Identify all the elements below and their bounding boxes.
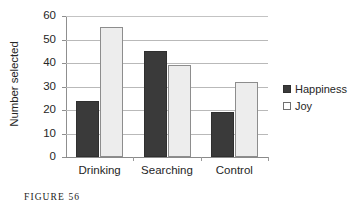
bar-drinking-joy [100, 27, 123, 157]
y-tick-mark [62, 110, 66, 111]
figure-container: Number selected DrinkingSearchingControl… [0, 0, 364, 212]
legend-item-joy: Joy [283, 97, 347, 114]
y-tick-label: 0 [30, 151, 56, 162]
legend-item-happiness: Happiness [283, 80, 347, 97]
y-tick-label: 10 [30, 128, 56, 139]
x-axis-label-drinking: Drinking [66, 164, 133, 176]
figure-caption: FIGURE 56 [24, 192, 80, 202]
open-square-icon [283, 102, 291, 110]
y-axis-title: Number selected [8, 28, 24, 140]
filled-square-icon [283, 85, 291, 93]
chart-legend: HappinessJoy [283, 80, 347, 114]
x-axis-label-searching: Searching [133, 164, 200, 176]
bar-searching-happiness [144, 51, 167, 157]
x-axis-label-control: Control [201, 164, 268, 176]
y-tick-mark [62, 63, 66, 64]
y-tick-mark [62, 40, 66, 41]
bar-drinking-happiness [76, 101, 99, 157]
plot-area [66, 16, 268, 157]
y-tick-mark [62, 16, 66, 17]
bar-searching-joy [168, 65, 191, 157]
x-tick-mark [201, 157, 202, 161]
y-tick-label: 40 [30, 57, 56, 68]
y-tick-label: 20 [30, 104, 56, 115]
y-tick-label: 50 [30, 34, 56, 45]
bar-control-happiness [211, 112, 234, 157]
legend-item-label: Happiness [295, 83, 347, 95]
y-tick-mark [62, 87, 66, 88]
y-tick-mark [62, 157, 66, 158]
gridline [66, 157, 268, 158]
y-tick-mark [62, 134, 66, 135]
gridline [66, 63, 268, 64]
y-tick-label: 60 [30, 10, 56, 21]
legend-item-label: Joy [295, 100, 312, 112]
x-tick-mark [133, 157, 134, 161]
bar-control-joy [235, 82, 258, 157]
gridline [66, 16, 268, 17]
x-tick-mark [268, 157, 269, 161]
gridline [66, 40, 268, 41]
y-tick-label: 30 [30, 81, 56, 92]
